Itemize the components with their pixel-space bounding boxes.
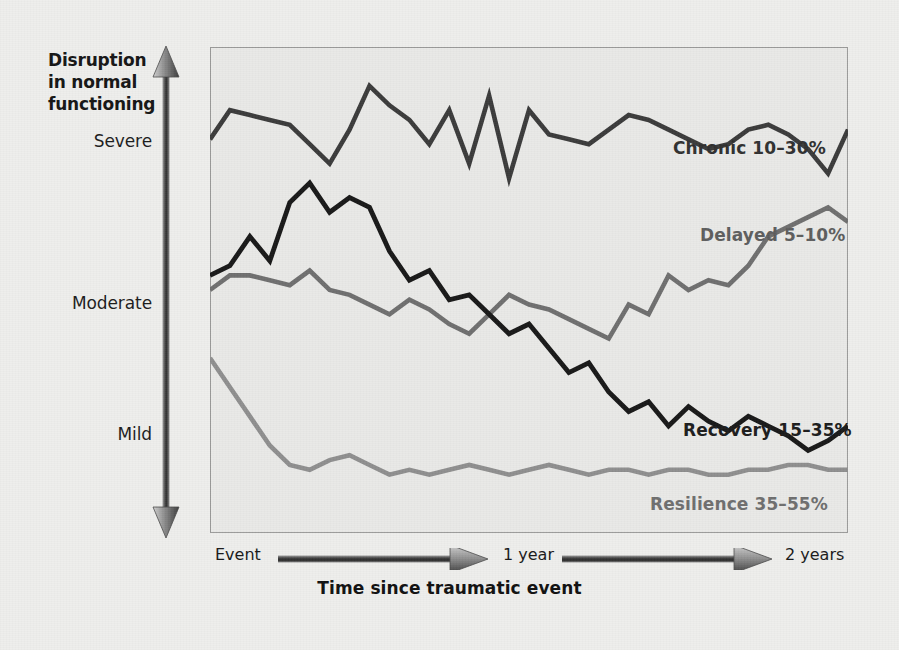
x-axis-tick-event: Event (215, 545, 261, 564)
x-axis-tick-1-year: 1 year (503, 545, 554, 564)
trauma-response-trajectories-figure: Disruption in normal functioning Severe … (0, 0, 899, 650)
chart-title: Time since traumatic event (0, 578, 899, 598)
series-label-resilience: Resilience 35–55% (650, 494, 828, 514)
series-label-chronic: Chronic 10–30% (673, 138, 826, 158)
x-axis-arrow-second-segment-icon (562, 548, 774, 570)
series-line-recovery (210, 183, 848, 450)
trajectory-lines-plot (210, 47, 848, 533)
x-axis-tick-2-years: 2 years (785, 545, 844, 564)
series-line-chronic (210, 86, 848, 178)
y-axis-tick-moderate: Moderate (28, 293, 152, 313)
x-axis-arrow-first-segment-icon (278, 548, 490, 570)
y-axis-tick-severe: Severe (40, 131, 152, 151)
y-axis-caption-line-3: functioning (48, 94, 158, 116)
y-axis-caption: Disruption in normal functioning (48, 50, 158, 115)
y-axis-caption-line-2: in normal (48, 72, 158, 94)
y-axis-caption-line-1: Disruption (48, 50, 158, 72)
double-headed-vertical-arrow-icon (148, 44, 184, 540)
series-label-recovery: Recovery 15–35% (683, 420, 852, 440)
x-axis: Event 1 year 2 years (200, 540, 880, 574)
y-axis-tick-mild: Mild (40, 424, 152, 444)
series-label-delayed: Delayed 5–10% (700, 225, 845, 245)
